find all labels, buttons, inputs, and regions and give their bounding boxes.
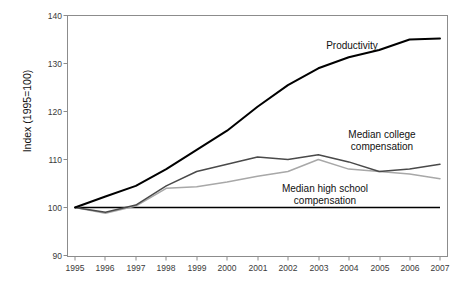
- annotation-median-college: Median college compensation: [327, 129, 437, 153]
- annotation-median-high-school: Median high school compensation: [262, 183, 388, 207]
- x-tick-2007: 2007: [423, 264, 457, 273]
- x-tick-1997: 1997: [119, 264, 153, 273]
- x-tick-2004: 2004: [332, 264, 366, 273]
- x-tick-1996: 1996: [88, 264, 122, 273]
- annotation-median-high-school-line1: Median high school: [262, 183, 388, 195]
- x-tick-2006: 2006: [393, 264, 427, 273]
- x-tick-2005: 2005: [363, 264, 397, 273]
- x-tick-1995: 1995: [58, 264, 92, 273]
- chart-container: Index (1995=100) 140 130 120 110 100 90: [0, 0, 467, 292]
- x-tick-marks: [75, 257, 440, 261]
- annotation-productivity: Productivity: [297, 40, 407, 52]
- annotation-median-college-line2: compensation: [327, 141, 437, 153]
- x-tick-2003: 2003: [302, 264, 336, 273]
- y-tick-marks: [64, 16, 68, 256]
- x-tick-2001: 2001: [241, 264, 275, 273]
- annotation-median-high-school-line2: compensation: [262, 195, 388, 207]
- annotation-productivity-line1: Productivity: [326, 40, 378, 51]
- x-tick-2002: 2002: [271, 264, 305, 273]
- x-tick-1999: 1999: [180, 264, 214, 273]
- x-tick-1998: 1998: [149, 264, 183, 273]
- x-tick-2000: 2000: [210, 264, 244, 273]
- annotation-median-college-line1: Median college: [327, 129, 437, 141]
